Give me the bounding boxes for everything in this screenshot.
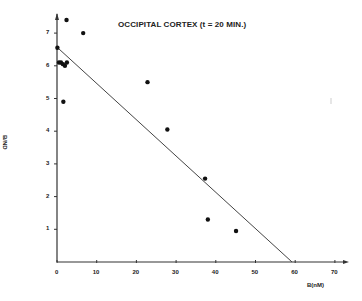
- data-points: [55, 18, 238, 233]
- scan-artifact: [330, 98, 332, 104]
- y-tick-label: 6: [46, 62, 49, 68]
- data-point: [64, 18, 68, 22]
- scatchard-plot: [0, 0, 362, 301]
- data-point: [61, 100, 65, 104]
- x-tick-label: 40: [212, 269, 219, 275]
- axes: [54, 13, 349, 264]
- chart-title: OCCIPITAL CORTEX (t = 20 MIN.): [118, 20, 246, 29]
- y-tick-label: 1: [46, 225, 49, 231]
- data-point: [203, 176, 207, 180]
- x-tick-label: 70: [331, 269, 338, 275]
- y-tick-label: 3: [46, 160, 49, 166]
- data-point: [145, 80, 149, 84]
- y-tick-label: 7: [46, 29, 49, 35]
- x-tick-label: 0: [55, 269, 58, 275]
- data-point: [234, 229, 238, 233]
- data-point: [81, 31, 85, 35]
- y-tick-label: 2: [46, 193, 49, 199]
- data-point: [206, 217, 210, 221]
- x-tick-label: 30: [172, 269, 179, 275]
- data-point: [55, 46, 59, 50]
- x-tick-label: 20: [132, 269, 139, 275]
- x-tick-label: 10: [93, 269, 100, 275]
- x-tick-label: 60: [291, 269, 298, 275]
- y-tick-label: 5: [46, 95, 49, 101]
- y-axis-label: B/ND: [2, 135, 8, 150]
- x-axis-label: B(nM): [307, 282, 324, 288]
- data-point: [165, 127, 169, 131]
- data-point: [65, 60, 69, 64]
- regression-line: [57, 47, 292, 262]
- y-tick-label: 4: [46, 127, 49, 133]
- x-tick-label: 50: [252, 269, 259, 275]
